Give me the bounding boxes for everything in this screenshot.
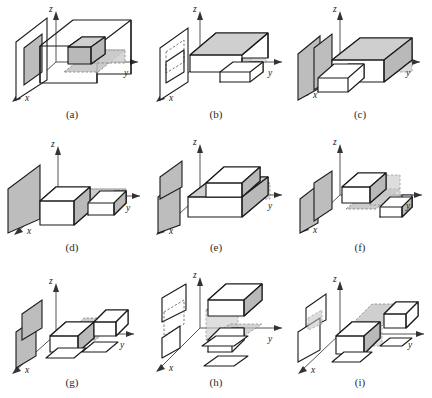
axis-label-y-b: y xyxy=(267,68,273,78)
axis-label-x-g: x xyxy=(24,365,30,375)
axis-label-x-d: x xyxy=(26,226,32,236)
axis-label-y-h: y xyxy=(267,334,273,344)
axis-label-y-f: y xyxy=(405,201,411,211)
cube-front-i xyxy=(336,322,380,354)
axis-label-x-i: x xyxy=(310,365,316,375)
axis-label-z-b: z xyxy=(192,4,197,14)
panel-d: y z x (d) xyxy=(0,133,144,266)
axis-label-z-a: z xyxy=(48,4,53,14)
axis-label-y-e: y xyxy=(267,201,273,211)
axis-label-y-i: y xyxy=(407,340,413,350)
axis-label-y-a: y xyxy=(123,68,129,78)
figure-container: y z x (a) xyxy=(0,0,432,398)
ground-plate-bottom-h xyxy=(204,356,248,366)
axis-label-x-e: x xyxy=(168,226,174,236)
axis-label-y-d: y xyxy=(125,203,131,213)
axis-label-y-c: y xyxy=(405,68,411,78)
panel-label-a: (a) xyxy=(0,108,144,120)
axis-label-z-i: z xyxy=(332,274,337,284)
panel-c: y z x (c) xyxy=(288,0,432,133)
projection-plane-upper-f xyxy=(314,171,332,221)
panel-label-f: (f) xyxy=(288,241,432,253)
axis-label-x-h: x xyxy=(168,363,174,373)
box-left-d xyxy=(40,187,90,225)
panel-label-h: (h) xyxy=(144,376,288,388)
panel-i: y z x (i) xyxy=(288,266,432,398)
projection-plane-d xyxy=(8,165,40,233)
projection-plane-upper-h xyxy=(162,284,186,322)
axis-label-z-e: z xyxy=(192,137,197,147)
panel-f: y z x (f) xyxy=(288,133,432,266)
panel-h: y z x (h) xyxy=(144,266,288,398)
axis-label-x-a: x xyxy=(24,93,30,103)
axis-label-x-c: x xyxy=(312,90,318,100)
axis-label-z-c: z xyxy=(332,4,337,14)
projection-plane-lower-h xyxy=(162,326,180,358)
axis-label-x-f: x xyxy=(312,225,318,235)
axis-label-z-h: z xyxy=(192,270,197,280)
axis-label-z-g: z xyxy=(48,276,53,286)
panel-a: y z x (a) xyxy=(0,0,144,133)
panel-g: y z x (g) xyxy=(0,266,144,398)
axis-label-z-d: z xyxy=(50,139,55,149)
panel-label-d: (d) xyxy=(0,241,144,253)
panel-e: y z x (e) xyxy=(144,133,288,266)
cube-upper-h xyxy=(208,284,262,316)
panel-label-i: (i) xyxy=(288,376,432,388)
panel-b: y z x (b) xyxy=(144,0,288,133)
panel-label-g: (g) xyxy=(0,376,144,388)
panel-label-e: (e) xyxy=(144,241,288,253)
projection-plane-upper-g xyxy=(22,300,42,340)
axis-label-y-g: y xyxy=(119,340,125,350)
panel-label-c: (c) xyxy=(288,108,432,120)
axis-label-z-f: z xyxy=(332,137,337,147)
box-back-g xyxy=(94,310,128,336)
panel-label-b: (b) xyxy=(144,108,288,120)
axis-label-x-b: x xyxy=(168,93,174,103)
